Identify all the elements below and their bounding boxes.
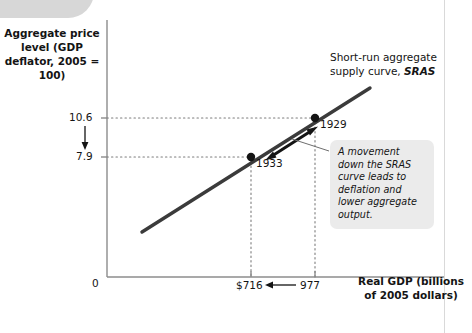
x-axis-title: Real GDP (billions of 2005 dollars) [352,275,470,302]
x-tick-label-977: 977 [300,279,320,291]
data-point-1933 [247,153,255,161]
origin-label: 0 [92,277,99,289]
movement-callout-box: A movement down the SRAS curve leads to … [330,140,434,229]
data-point-1929 [311,114,319,122]
sras-curve-label: Short-run aggregate supply curve, SRAS [330,51,470,78]
y-axis-title: Aggregate price level (GDP deflator, 200… [0,26,104,82]
x-tick-label-716: $716 [236,279,263,291]
sras-curve-label-name: SRAS [404,65,435,77]
data-point-label-1929: 1929 [320,118,347,130]
y-tick-label-7-9: 7.9 [76,150,93,162]
output-decrease-arrow [265,282,296,289]
y-tick-label-10-6: 10.6 [69,111,92,123]
data-point-label-1933: 1933 [256,157,283,169]
sras-figure: Aggregate price level (GDP deflator, 200… [0,0,472,333]
callout-leader-line [292,139,329,151]
movement-along-curve-arrow [265,127,318,161]
price-level-decrease-arrow [82,126,89,150]
